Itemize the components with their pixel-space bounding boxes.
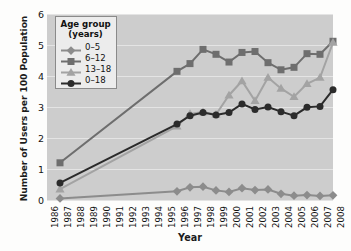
legend-item-label: 0–5 bbox=[85, 42, 100, 52]
legend-item-13-18[interactable]: 13–18 bbox=[60, 63, 111, 74]
series-line bbox=[60, 90, 333, 183]
x-tick-label: 2006 bbox=[310, 206, 320, 228]
legend-item-label: 0–18 bbox=[85, 75, 106, 85]
y-tick-label: 0 bbox=[30, 195, 44, 206]
x-tick-label: 2004 bbox=[284, 206, 294, 228]
data-point-marker bbox=[239, 49, 246, 56]
x-tick-label: 1989 bbox=[89, 206, 99, 228]
data-point-marker bbox=[200, 109, 207, 116]
x-tick-label: 2000 bbox=[232, 206, 242, 228]
legend: Age group (years) 0–56–1213–180–18 bbox=[55, 16, 117, 89]
data-point-marker bbox=[226, 59, 233, 66]
data-point-marker bbox=[213, 51, 220, 58]
data-point-marker bbox=[303, 191, 312, 200]
data-point-marker bbox=[57, 159, 64, 166]
data-point-marker bbox=[304, 50, 311, 57]
data-point-marker bbox=[212, 186, 221, 195]
x-tick-label: 1988 bbox=[76, 206, 86, 228]
x-tick-label: 1993 bbox=[141, 206, 151, 228]
data-point-marker bbox=[174, 121, 181, 128]
data-point-marker bbox=[330, 86, 337, 93]
data-point-marker bbox=[237, 76, 246, 84]
data-point-marker bbox=[199, 182, 208, 191]
x-axis-ticks: 1986198719881989199019911992199319941995… bbox=[47, 200, 333, 230]
x-tick-label: 2003 bbox=[271, 206, 281, 228]
data-point-marker bbox=[278, 108, 285, 115]
data-point-marker bbox=[290, 191, 299, 200]
x-axis-title: Year bbox=[47, 232, 333, 243]
data-point-marker bbox=[68, 80, 75, 87]
y-tick-label: 1 bbox=[30, 164, 44, 175]
data-point-marker bbox=[329, 191, 338, 200]
x-tick-label: 1998 bbox=[206, 206, 216, 228]
x-tick-label: 1991 bbox=[115, 206, 125, 228]
series-0-18 bbox=[57, 86, 337, 186]
data-point-marker bbox=[252, 106, 259, 113]
data-point-marker bbox=[291, 64, 298, 71]
data-point-marker bbox=[174, 68, 181, 75]
data-point-marker bbox=[315, 73, 324, 81]
x-tick-label: 1997 bbox=[193, 206, 203, 228]
data-point-marker bbox=[238, 184, 247, 193]
data-point-marker bbox=[226, 109, 233, 116]
x-tick-label: 2005 bbox=[297, 206, 307, 228]
y-tick-label: 2 bbox=[30, 133, 44, 144]
x-tick-label: 1996 bbox=[180, 206, 190, 228]
x-tick-label: 2007 bbox=[323, 206, 333, 228]
x-tick-label: 1990 bbox=[102, 206, 112, 228]
x-tick-label: 2001 bbox=[245, 206, 255, 228]
x-tick-label: 1995 bbox=[167, 206, 177, 228]
y-tick-label: 3 bbox=[30, 102, 44, 113]
y-tick-label: 6 bbox=[30, 9, 44, 20]
data-point-marker bbox=[225, 188, 234, 197]
triangle-marker-icon bbox=[60, 63, 82, 74]
legend-title-line2: (years) bbox=[60, 30, 111, 40]
x-tick-label: 2002 bbox=[258, 206, 268, 228]
data-point-marker bbox=[187, 112, 194, 119]
data-point-marker bbox=[277, 189, 286, 198]
data-point-marker bbox=[57, 179, 64, 186]
legend-items: 0–56–1213–180–18 bbox=[60, 41, 111, 85]
data-point-marker bbox=[317, 103, 324, 110]
y-axis-ticks: 0123456 bbox=[26, 0, 44, 251]
data-point-marker bbox=[291, 112, 298, 119]
legend-title: Age group (years) bbox=[60, 20, 111, 39]
diamond-marker-icon bbox=[60, 41, 82, 52]
data-point-marker bbox=[265, 104, 272, 111]
x-tick-label: 1992 bbox=[128, 206, 138, 228]
data-point-marker bbox=[187, 60, 194, 67]
legend-item-label: 6–12 bbox=[85, 53, 106, 63]
data-point-marker bbox=[252, 48, 259, 55]
x-tick-label: 1999 bbox=[219, 206, 229, 228]
data-point-marker bbox=[200, 46, 207, 53]
legend-item-0-5[interactable]: 0–5 bbox=[60, 41, 111, 52]
data-point-marker bbox=[264, 185, 273, 194]
x-tick-label: 1994 bbox=[154, 206, 164, 228]
legend-item-label: 13–18 bbox=[85, 64, 111, 74]
data-point-marker bbox=[304, 104, 311, 111]
x-tick-label: 2008 bbox=[336, 206, 346, 228]
data-point-marker bbox=[263, 73, 272, 81]
data-point-marker bbox=[265, 59, 272, 66]
x-tick-label: 1986 bbox=[50, 206, 60, 228]
y-tick-label: 4 bbox=[30, 71, 44, 82]
legend-item-0-18[interactable]: 0–18 bbox=[60, 74, 111, 85]
y-tick-label: 5 bbox=[30, 40, 44, 51]
data-point-marker bbox=[278, 66, 285, 73]
legend-item-6-12[interactable]: 6–12 bbox=[60, 52, 111, 63]
data-point-marker bbox=[173, 187, 182, 196]
data-point-marker bbox=[186, 183, 195, 192]
line-chart: Number of Users per 100 Population 01234… bbox=[0, 0, 351, 251]
data-point-marker bbox=[317, 51, 324, 58]
circle-marker-icon bbox=[60, 74, 82, 85]
data-point-marker bbox=[213, 112, 220, 119]
x-tick-label: 1987 bbox=[63, 206, 73, 228]
data-point-marker bbox=[251, 186, 260, 195]
data-point-marker bbox=[239, 100, 246, 107]
square-marker-icon bbox=[60, 52, 82, 63]
